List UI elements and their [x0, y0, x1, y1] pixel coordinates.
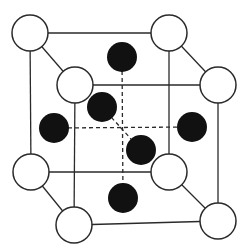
open-atom-front-bottom-left — [56, 207, 92, 243]
filled-atom-face-back — [87, 92, 117, 122]
cube-edge — [74, 85, 75, 225]
open-atom-front-top-left — [57, 67, 93, 103]
open-atom-front-top-right — [200, 67, 236, 103]
open-atom-back-top-right — [151, 15, 187, 51]
filled-atom-face-left — [39, 113, 69, 143]
open-atom-back-bottom-right — [151, 154, 187, 190]
filled-atom-face-top — [107, 42, 137, 72]
filled-atom-face-right — [177, 112, 207, 142]
filled-atom-face-bottom — [108, 183, 138, 213]
open-atom-back-top-left — [12, 15, 48, 51]
cube-edge — [30, 33, 31, 172]
cube-edge — [74, 221, 218, 225]
dashed-vertical-axis — [122, 57, 123, 198]
filled-atom-face-front — [126, 135, 156, 165]
unit-cell-diagram — [0, 0, 249, 250]
open-atom-back-bottom-left — [13, 154, 49, 190]
open-atom-front-bottom-right — [200, 203, 236, 239]
